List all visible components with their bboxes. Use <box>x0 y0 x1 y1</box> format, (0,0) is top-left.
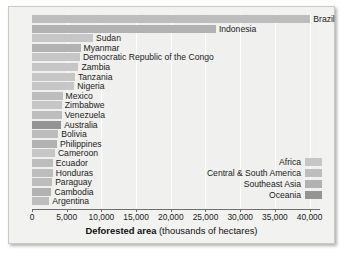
bar <box>32 149 55 157</box>
bar-label: Cameroon <box>58 148 98 158</box>
bar <box>32 34 93 42</box>
legend-item-label: Southeast Asia <box>244 179 301 189</box>
bar-label: Myanmar <box>84 43 120 53</box>
bar-label: Honduras <box>56 168 93 178</box>
bar-row: Tanzania <box>32 73 320 82</box>
x-axis-line <box>32 209 320 210</box>
bar-label: Democratic Republic of the Congo <box>83 52 214 62</box>
x-axis-tick-label: 10,000 <box>89 212 115 222</box>
bar-label: Mexico <box>66 91 93 101</box>
bar <box>32 44 81 52</box>
bar-row: Sudan <box>32 34 320 43</box>
x-axis-tick-label: 35,000 <box>262 212 288 222</box>
bar-label: Zambia <box>81 62 110 72</box>
legend-swatch <box>305 191 322 199</box>
bar-label: Tanzania <box>78 72 112 82</box>
bar <box>32 169 53 177</box>
bar-label: Paraguay <box>55 177 92 187</box>
x-axis-title: Deforested area (thousands of hectares) <box>9 225 334 237</box>
bar <box>32 178 52 186</box>
x-axis-tick-label: 40,000 <box>297 212 323 222</box>
bar-row: Zambia <box>32 63 320 72</box>
bar <box>32 101 62 109</box>
x-axis-tick-label: 30,000 <box>227 212 253 222</box>
chart-figure-frame: BrazilIndonesiaSudanMyanmarDemocratic Re… <box>8 6 335 244</box>
legend-item-label: Oceania <box>269 190 301 200</box>
x-axis-tick-label: 25,000 <box>193 212 219 222</box>
bar-label: Venezuela <box>65 110 105 120</box>
legend-swatch <box>305 169 322 177</box>
x-axis-tick-label: 15,000 <box>123 212 149 222</box>
bar-label: Nigeria <box>77 81 104 91</box>
legend-item: Africa <box>172 157 322 167</box>
bar-label: Philippines <box>60 139 102 149</box>
bar <box>32 92 63 100</box>
x-axis-title-units: (thousands of hectares) <box>159 225 258 236</box>
legend-swatch <box>305 180 322 188</box>
chart-legend: AfricaCentral & South AmericaSoutheast A… <box>172 157 322 201</box>
bar <box>32 140 57 148</box>
bar <box>32 111 62 119</box>
bar-label: Cambodia <box>54 187 93 197</box>
bar <box>32 25 216 33</box>
bar-label: Argentina <box>52 196 89 206</box>
x-axis-title-bold: Deforested area <box>86 225 157 236</box>
bar-label: Indonesia <box>219 24 256 34</box>
bar-label: Brazil <box>313 14 335 24</box>
bar-row: Brazil <box>32 15 320 24</box>
bar <box>32 188 51 196</box>
bar-row: Indonesia <box>32 25 320 34</box>
x-axis-tick-label: 0 <box>30 212 35 222</box>
bar <box>32 130 58 138</box>
bar-row: Democratic Republic of the Congo <box>32 53 320 62</box>
bar-label: Ecuador <box>56 158 88 168</box>
bar <box>32 53 80 61</box>
bar <box>32 73 75 81</box>
legend-item: Oceania <box>172 190 322 200</box>
bar <box>32 159 53 167</box>
bar-label: Sudan <box>96 33 121 43</box>
legend-item: Southeast Asia <box>172 179 322 189</box>
legend-item-label: Central & South America <box>207 168 301 178</box>
bar <box>32 15 310 23</box>
x-axis-tick-label: 5,000 <box>56 212 77 222</box>
legend-swatch <box>305 158 322 166</box>
legend-item-label: Africa <box>279 157 301 167</box>
bar-label: Zimbabwe <box>65 100 105 110</box>
bar <box>32 63 78 71</box>
bar <box>32 121 61 129</box>
bar-label: Bolivia <box>61 129 86 139</box>
bar <box>32 197 49 205</box>
bar-label: Australia <box>64 120 97 130</box>
legend-item: Central & South America <box>172 168 322 178</box>
bar <box>32 82 74 90</box>
x-axis-tick-label: 20,000 <box>158 212 184 222</box>
